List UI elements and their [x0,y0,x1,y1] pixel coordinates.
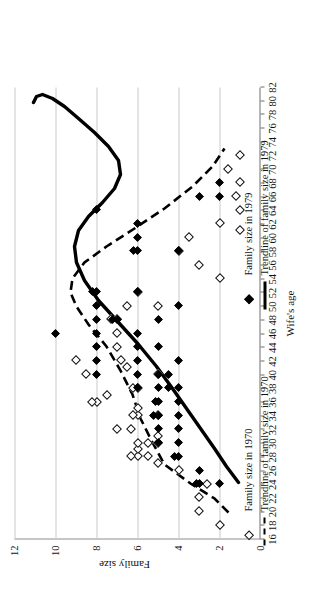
data-point-1970 [122,300,132,310]
gridline [55,87,56,538]
data-point-1979 [164,369,172,377]
scatter-chart-figure: 1618202224262830323436384042444648505254… [0,0,323,591]
x-tick-mark [260,86,264,87]
data-point-1979 [133,232,141,240]
data-point-1979 [153,315,161,323]
data-point-1970 [112,341,122,351]
data-point-1979 [92,301,100,309]
data-point-1979 [174,424,182,432]
data-point-1970 [112,423,122,433]
open-diamond-icon [240,517,256,547]
data-point-1979 [133,219,141,227]
data-point-1979 [174,383,182,391]
y-axis-title: Family size [64,558,184,570]
x-tick-mark [260,113,264,114]
legend-label: Family size in 1979 [240,192,256,275]
data-point-1970 [81,369,91,379]
data-point-1979 [153,342,161,350]
data-point-1979 [133,356,141,364]
plot-area [14,87,260,539]
legend-column-1970: Family size in 1970 Trendline of family … [240,376,272,547]
data-point-1970 [112,328,122,338]
gridline [137,87,138,538]
data-point-1970 [71,355,81,365]
x-tick-label: 82 [266,76,277,98]
data-point-1979 [92,205,100,213]
legend-label: Trendline of family size in 1979 [256,140,272,275]
data-point-1970 [101,389,111,399]
data-point-1979 [174,410,182,418]
data-point-1979 [194,191,202,199]
legend-item-trendline-1979: Trendline of family size in 1979 [256,140,272,311]
data-point-1970 [126,451,136,461]
y-tick-label: 10 [49,545,60,571]
data-point-1979 [92,342,100,350]
data-point-1979 [174,397,182,405]
data-point-1979 [174,438,182,446]
data-point-1970 [222,163,232,173]
x-tick-mark [260,100,264,101]
data-point-1979 [133,369,141,377]
x-tick-mark [260,374,264,375]
legend-item-trendline-1970: Trendline of family size in 1970 [256,376,272,547]
data-point-1979 [92,328,100,336]
data-point-1970 [122,362,132,372]
data-point-1979 [133,328,141,336]
legend-column-1979: Family size in 1979 Trendline of family … [240,140,272,311]
data-point-1979 [92,369,100,377]
data-point-1979 [215,178,223,186]
data-point-1970 [194,492,204,502]
legend-label: Family size in 1970 [240,428,256,511]
data-point-1979 [174,301,182,309]
data-point-1970 [183,232,193,242]
x-tick-mark [260,333,264,334]
data-point-1970 [153,458,163,468]
data-point-1979 [51,328,59,336]
data-point-1979 [133,342,141,350]
x-tick-mark [260,346,264,347]
x-tick-mark [260,127,264,128]
data-point-1970 [126,423,136,433]
gridline [219,87,220,538]
data-point-1970 [194,259,204,269]
data-point-1979 [92,315,100,323]
gridline [96,87,97,538]
data-point-1979 [174,356,182,364]
legend-label: Trendline of family size in 1970 [256,376,272,511]
data-point-1970 [142,437,152,447]
data-point-1970 [214,218,224,228]
y-tick-label: 12 [8,545,19,571]
data-point-1979 [164,383,172,391]
data-point-1970 [142,451,152,461]
x-tick-mark [260,319,264,320]
data-point-1979 [153,383,161,391]
legend-item-family-size-1979: Family size in 1979 [240,140,256,311]
y-tick-label: 0 [254,545,265,571]
gridline [14,87,15,538]
data-point-1979 [194,465,202,473]
dashed-line-icon [256,517,272,547]
data-point-1979 [215,479,223,487]
data-point-1970 [214,519,224,529]
x-axis-title: Wife's age [283,87,295,539]
data-point-1979 [215,191,223,199]
solid-line-icon [256,281,272,311]
data-point-1979 [92,356,100,364]
filled-diamond-icon [240,281,256,311]
data-point-1979 [153,424,161,432]
data-point-1970 [214,273,224,283]
data-point-1970 [230,191,240,201]
data-point-1970 [194,506,204,516]
y-tick-label: 2 [213,545,224,571]
legend-item-family-size-1970: Family size in 1970 [240,376,256,547]
data-point-1970 [173,465,183,475]
rotated-figure-container: 1618202224262830323436384042444648505254… [0,0,323,591]
data-point-1970 [153,300,163,310]
x-tick-mark [260,360,264,361]
